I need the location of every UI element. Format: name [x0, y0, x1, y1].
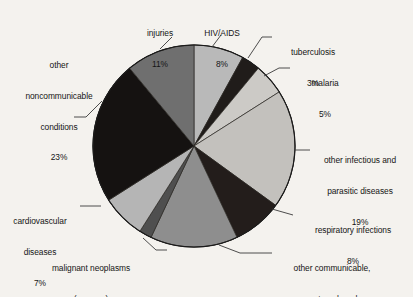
- leader-line-respiratory: [272, 209, 293, 215]
- label-tuberculosis-name: tuberculosis: [273, 47, 353, 57]
- label-other-noncommunicable: other noncommunicable conditions 23%: [5, 40, 113, 183]
- label-respiratory-name: respiratory infections: [297, 225, 409, 235]
- label-hiv-aids-name: HIV/AIDS: [181, 28, 263, 38]
- label-malaria-name: malaria: [291, 78, 359, 88]
- label-malaria-percent: 5%: [291, 109, 359, 119]
- label-other-noncommunicable-line2: noncommunicable: [5, 91, 113, 101]
- label-hiv-aids: HIV/AIDS 8%: [181, 8, 263, 90]
- label-other-communicable-line1: other communicable,: [276, 263, 388, 273]
- label-other-infectious-line1: other infectious and: [310, 155, 410, 165]
- label-other-communicable: other communicable, maternal, and perina…: [276, 243, 388, 297]
- label-cardiovascular: cardiovascular diseases 7%: [2, 196, 78, 297]
- label-cardiovascular-percent: 7%: [2, 278, 78, 288]
- label-other-infectious-line2: parasitic diseases: [310, 186, 410, 196]
- label-malaria: malaria 5%: [291, 58, 359, 140]
- label-other-noncommunicable-percent: 23%: [5, 152, 113, 162]
- label-hiv-aids-percent: 8%: [181, 59, 263, 69]
- leader-line-other-communicable: [219, 245, 272, 253]
- label-cardiovascular-line2: diseases: [2, 247, 78, 257]
- pie-chart-figure: HIV/AIDS 8%tuberculosis 3%malaria 5%othe…: [0, 0, 413, 297]
- label-other-noncommunicable-line3: conditions: [5, 122, 113, 132]
- label-cardiovascular-line1: cardiovascular: [2, 216, 78, 226]
- label-other-noncommunicable-line1: other: [5, 60, 113, 70]
